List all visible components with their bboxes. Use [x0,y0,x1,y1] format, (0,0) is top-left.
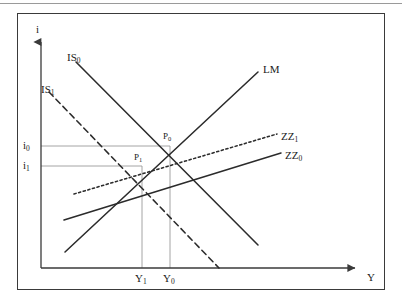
x-tick-label-y0: Y0 [163,273,175,284]
equilibrium-p0-sub: 0 [168,135,171,142]
y-tick-label-i1: i1 [23,160,30,171]
curve-is1-sub: 1 [51,88,55,97]
curve-label-lm: LM [263,64,280,75]
x-tick-y1-base: Y [135,272,143,284]
curve-label-zz1: ZZ1 [281,131,298,142]
curve-label-zz0: ZZ0 [285,150,302,161]
curve-lm [65,72,258,252]
curve-lm-base: LM [263,63,280,75]
curve-zz0 [64,153,281,220]
y-tick-label-i0: i0 [23,140,30,151]
curve-zz1-base: ZZ [281,130,294,142]
curve-zz1-sub: 1 [294,135,298,144]
curve-is1-base: IS [41,83,51,95]
x-tick-y1-sub: 1 [143,277,147,286]
x-tick-y0-sub: 0 [171,277,175,286]
y-tick-i0-sub: 0 [26,144,30,153]
x-tick-y0-base: Y [163,272,171,284]
curve-zz0-sub: 0 [298,154,302,163]
y-axis-label: i [36,24,39,35]
equilibrium-label-p1: P1 [134,153,142,162]
axes [41,42,355,268]
figure-root: i Y i0 i1 Y1 Y0 IS0 IS1 LM ZZ1 ZZ0 P0 P1 [0,0,402,308]
x-tick-label-y1: Y1 [135,273,147,284]
curve-is0-base: IS [67,51,77,63]
equilibrium-p1-sub: 1 [139,156,142,163]
equilibrium-label-p0: P0 [163,132,171,141]
x-axis-label: Y [367,272,375,283]
curve-is0-sub: 0 [77,56,81,65]
y-tick-i1-sub: 1 [26,164,30,173]
curve-zz0-base: ZZ [285,149,298,161]
curve-is0 [76,62,258,245]
curve-label-is0: IS0 [67,52,81,63]
curve-label-is1: IS1 [41,84,55,95]
plot-canvas [0,0,402,308]
